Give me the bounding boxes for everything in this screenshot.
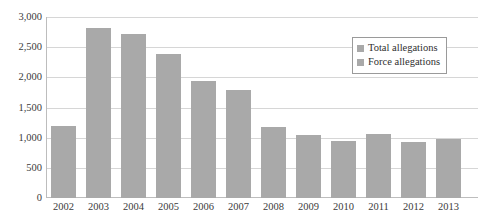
x-tick-label-2009: 2009 — [291, 200, 326, 213]
bar-2002[interactable] — [51, 126, 76, 198]
bar-chart: 0 500 1,000 1,500 2,000 2,500 3,000 — [0, 0, 484, 222]
x-tick-label-2010: 2010 — [326, 200, 361, 213]
bar-2007[interactable] — [226, 90, 251, 198]
x-tick-label-2012: 2012 — [396, 200, 431, 213]
bar-2009[interactable] — [296, 135, 321, 198]
legend-item-total-allegations[interactable]: Total allegations — [357, 41, 440, 55]
x-tick-label-2011: 2011 — [361, 200, 396, 213]
legend-label: Total allegations — [368, 42, 438, 54]
x-tick-label-2006: 2006 — [186, 200, 221, 213]
x-axis: 2002 2003 2004 2005 2006 2007 2008 2009 … — [46, 200, 478, 220]
y-tick-label: 2,000 — [0, 72, 42, 82]
bar-2010[interactable] — [331, 141, 356, 198]
legend-swatch-icon — [357, 45, 364, 52]
bar-2005[interactable] — [156, 54, 181, 198]
bar-slot-2002 — [46, 17, 81, 198]
bar-slot-2004 — [116, 17, 151, 198]
y-tick-label: 0 — [0, 193, 42, 203]
bar-2008[interactable] — [261, 127, 286, 198]
x-tick-label-2013: 2013 — [431, 200, 466, 213]
bar-slot-2008 — [256, 17, 291, 198]
x-tick-label-2005: 2005 — [151, 200, 186, 213]
legend-item-force-allegations[interactable]: Force allegations — [357, 55, 440, 69]
bar-2012[interactable] — [401, 142, 426, 198]
bar-slot-2003 — [81, 17, 116, 198]
bar-slot-2006 — [186, 17, 221, 198]
x-tick-label-2004: 2004 — [116, 200, 151, 213]
legend-swatch-icon — [357, 59, 364, 66]
x-tick-label-2008: 2008 — [256, 200, 291, 213]
x-tick-label-2007: 2007 — [221, 200, 256, 213]
y-tick-label: 1,500 — [0, 103, 42, 113]
bar-2006[interactable] — [191, 81, 216, 198]
legend-label: Force allegations — [368, 56, 440, 68]
y-axis: 0 500 1,000 1,500 2,000 2,500 3,000 — [0, 17, 42, 198]
y-tick-label: 500 — [0, 163, 42, 173]
x-tick-label-2003: 2003 — [81, 200, 116, 213]
y-tick-label: 3,000 — [0, 12, 42, 22]
bar-slot-2005 — [151, 17, 186, 198]
y-tick-label: 1,000 — [0, 133, 42, 143]
bar-2013[interactable] — [436, 139, 461, 198]
bar-2011[interactable] — [366, 134, 391, 198]
y-tick-label: 2,500 — [0, 42, 42, 52]
x-tick-label-2002: 2002 — [46, 200, 81, 213]
bar-slot-2007 — [221, 17, 256, 198]
legend: Total allegations Force allegations — [352, 37, 447, 74]
bar-2003[interactable] — [86, 28, 111, 198]
bar-slot-2009 — [291, 17, 326, 198]
bar-2004[interactable] — [121, 34, 146, 198]
